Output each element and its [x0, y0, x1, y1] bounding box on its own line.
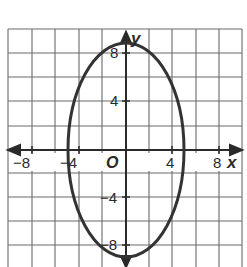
axes	[8, 32, 242, 267]
y-tick-8: 8	[110, 44, 118, 61]
x-tick-8: 8	[213, 154, 221, 171]
origin-label: O	[106, 154, 119, 171]
x-tick-neg8: −8	[13, 154, 30, 171]
y-tick-4: 4	[110, 92, 118, 109]
y-axis-label: y	[130, 29, 142, 48]
x-tick-neg4: −4	[60, 154, 77, 171]
x-axis-label: x	[226, 153, 238, 172]
y-tick-neg4: −4	[100, 189, 117, 206]
x-tick-4: 4	[166, 154, 174, 171]
ellipse-graph: −8 −4 O 4 8 x 8 4 −4 −8 y	[0, 0, 247, 267]
y-axis-up-arrow-icon	[121, 32, 131, 43]
y-tick-neg8: −8	[100, 236, 117, 253]
